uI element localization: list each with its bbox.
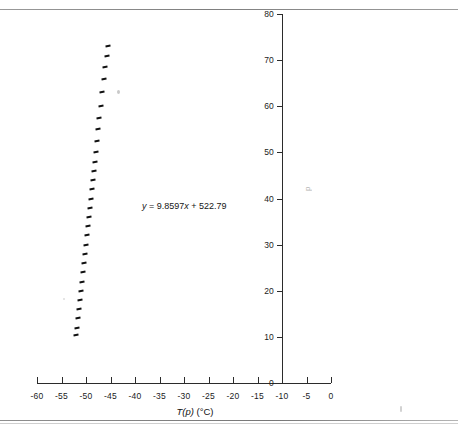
data-marker xyxy=(91,169,96,172)
equation-slope: 9.8597 xyxy=(157,201,185,211)
data-marker xyxy=(98,105,103,108)
data-marker xyxy=(92,160,97,163)
y-axis-title: p xyxy=(303,187,312,191)
data-marker xyxy=(100,91,105,94)
data-marker xyxy=(75,326,80,329)
data-marker xyxy=(80,271,85,274)
data-marker xyxy=(85,225,90,228)
data-marker xyxy=(74,333,79,336)
data-marker xyxy=(88,197,93,200)
data-marker xyxy=(87,206,92,209)
equation-intercept: 522.79 xyxy=(199,201,227,211)
x-axis-title: T(p) (°C) xyxy=(176,406,213,417)
x-axis-title-symbol: T(p) xyxy=(176,406,193,417)
data-marker xyxy=(77,299,82,302)
data-marker xyxy=(89,188,94,191)
data-marker xyxy=(96,128,101,131)
data-marker xyxy=(82,252,87,255)
data-marker xyxy=(84,234,89,237)
data-marker xyxy=(90,179,95,182)
data-marker xyxy=(97,116,102,119)
trendline-equation-label: y = 9.8597x + 522.79 xyxy=(142,201,227,211)
figure-canvas: -60-55-50-45-40-35-30-25-20-15-10-50 010… xyxy=(0,0,458,432)
data-marker xyxy=(104,54,109,57)
x-axis-title-units: (°C) xyxy=(197,406,214,417)
data-marker xyxy=(79,280,84,283)
data-marker xyxy=(105,45,110,48)
scan-speck-artifact xyxy=(117,90,120,94)
scan-speck-artifact xyxy=(400,406,402,412)
data-marker xyxy=(83,243,88,246)
data-marker xyxy=(101,77,106,80)
data-marker xyxy=(86,216,91,219)
data-marker xyxy=(93,151,98,154)
data-marker xyxy=(81,262,86,265)
scan-speck-artifact xyxy=(63,298,65,300)
data-series-layer xyxy=(0,0,458,432)
data-marker xyxy=(76,308,81,311)
data-marker xyxy=(94,139,99,142)
data-marker xyxy=(78,289,83,292)
data-marker xyxy=(76,317,81,320)
data-marker xyxy=(102,66,107,69)
